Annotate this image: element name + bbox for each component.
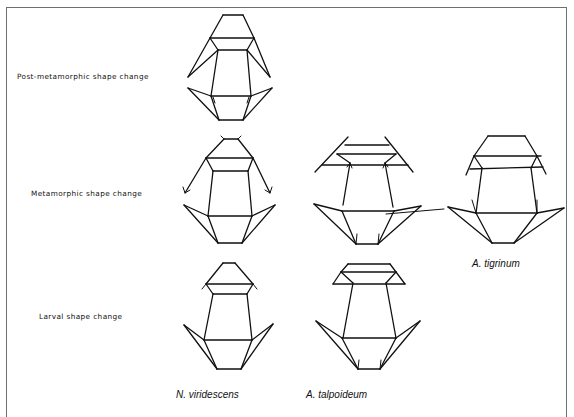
panel-metamorphic-a-talpoideum bbox=[314, 137, 444, 244]
panel-post-metamorphic-n-viridescens bbox=[188, 15, 272, 120]
panel-metamorphic-a-tigrinum bbox=[448, 136, 564, 243]
panel-larval-a-talpoideum bbox=[316, 264, 420, 369]
panel-metamorphic-n-viridescens bbox=[183, 136, 275, 243]
panel-larval-n-viridescens bbox=[184, 263, 273, 369]
